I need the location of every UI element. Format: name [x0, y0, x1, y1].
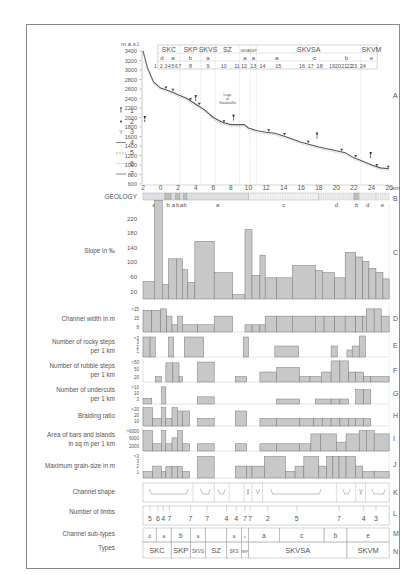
bar	[143, 310, 152, 332]
type-label: SZ	[211, 546, 221, 555]
panel-label: in sq m per 1 km	[68, 440, 115, 448]
panel-label: Number of rubble steps	[50, 362, 115, 370]
geology-segment	[143, 193, 165, 200]
bar	[260, 372, 277, 382]
bar	[143, 471, 153, 478]
bar	[331, 419, 340, 427]
limb-count: 5	[295, 515, 299, 522]
rocky-step-marker-icon	[164, 86, 167, 89]
bar	[197, 362, 214, 382]
x-axis-unit: km	[392, 185, 400, 191]
subtype-label: a	[197, 534, 200, 539]
x-tick: 12	[262, 184, 270, 191]
bar	[172, 325, 177, 332]
bar	[311, 434, 321, 451]
bar	[315, 399, 331, 404]
rocky-step-marker-icon	[387, 166, 390, 169]
y-tick: 15	[134, 316, 140, 321]
geology-segment	[180, 193, 184, 200]
row-letter-C: C	[393, 249, 398, 256]
section-number: 24	[360, 63, 366, 69]
bar	[172, 408, 177, 426]
type-label: SKVS	[192, 549, 204, 554]
section-number: 14	[259, 63, 265, 69]
slope-bar	[162, 284, 168, 299]
y-tick: 3	[136, 397, 139, 402]
bar	[166, 444, 172, 451]
bar	[277, 399, 300, 404]
bar	[153, 419, 162, 427]
panel-label: per 1 km	[91, 347, 116, 355]
rocky-step-marker-icon	[267, 129, 270, 132]
panel-label: Area of bars and islands	[47, 431, 115, 438]
bar	[235, 444, 246, 451]
channel-cross-section-icon	[149, 489, 188, 494]
slope-bar	[345, 252, 356, 299]
bar	[285, 471, 295, 478]
type-label: SKVS	[199, 46, 218, 53]
y-tick: 2	[136, 464, 139, 469]
type-label: SKC	[149, 546, 165, 555]
subtype-label: a	[171, 55, 175, 61]
channel-cross-section-icon	[200, 489, 210, 494]
slope-bar	[245, 230, 252, 299]
x-tick: 6	[212, 184, 216, 191]
bar	[352, 346, 359, 357]
y-tick: 3400	[125, 48, 137, 54]
subtype-label: c	[300, 532, 304, 539]
bar	[374, 471, 389, 478]
row-letter-N: N	[393, 548, 398, 555]
limb-count: 7	[167, 515, 171, 522]
bar	[235, 377, 246, 382]
geology-class-label: b	[355, 202, 359, 208]
y-tick: >10	[131, 385, 139, 390]
bar	[260, 444, 277, 451]
legend-label: 3	[130, 128, 134, 135]
panel-label: per 1 km	[91, 395, 116, 403]
bar	[371, 377, 389, 382]
bar	[235, 466, 246, 478]
row-letter-D: D	[393, 315, 398, 322]
y-tick: 6000	[129, 436, 140, 441]
rocky-step-marker-icon	[354, 155, 357, 158]
bar	[166, 419, 172, 427]
geology-segment	[165, 193, 171, 200]
bar	[381, 316, 389, 332]
type-label: SKVSA	[297, 46, 321, 53]
legend-icon-dot	[120, 121, 122, 123]
bar	[364, 419, 371, 427]
bar	[277, 316, 293, 332]
bar	[172, 467, 177, 478]
y-tick: 20	[130, 289, 137, 295]
section-number: 9	[207, 63, 210, 69]
y-tick: 3	[136, 459, 139, 464]
section-number: 18	[317, 63, 323, 69]
bar	[374, 434, 389, 451]
slope-bar	[322, 273, 334, 299]
bar	[324, 316, 335, 332]
slope-bar	[195, 241, 214, 299]
panel-label: Channel shape	[73, 488, 116, 496]
legend-icon-waterfall	[120, 108, 122, 113]
slope-bar	[356, 257, 363, 299]
subtype-label: b	[179, 532, 183, 539]
geology-segment	[183, 193, 187, 200]
y-tick: 3000	[125, 67, 137, 73]
x-tick: 0	[159, 184, 163, 191]
row-letter-I: I	[393, 435, 395, 442]
slope-bar	[277, 278, 293, 299]
type-label: SKS	[229, 549, 238, 554]
panel-label: Number of undercuts	[56, 386, 115, 393]
x-tick: 14	[280, 184, 288, 191]
bar	[346, 434, 359, 451]
type-label: SKVM	[362, 46, 382, 53]
row-letter-H: H	[393, 412, 398, 419]
channel-cross-section-icon	[271, 489, 321, 494]
y-tick: 10	[134, 391, 140, 396]
bar	[299, 444, 310, 451]
bar	[374, 309, 381, 332]
y-tick: 180	[127, 230, 138, 236]
bar	[197, 419, 214, 427]
bar	[331, 346, 337, 357]
channel-cross-section-icon	[247, 489, 249, 494]
